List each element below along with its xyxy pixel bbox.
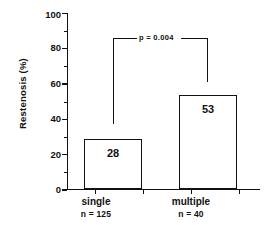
x-category-sublabel-multiple: n = 40 <box>161 209 221 219</box>
y-tick-label-0: 0 <box>56 185 61 195</box>
y-tick-label-100: 100 <box>45 10 61 20</box>
bar-multiple[interactable]: 53 <box>179 95 237 189</box>
y-tick-label-20: 20 <box>50 150 61 160</box>
y-tick-label-40: 40 <box>50 114 61 124</box>
y-minor-tick-30 <box>64 137 67 138</box>
y-tick-mark-20 <box>62 154 67 155</box>
y-minor-tick-90 <box>64 31 67 32</box>
significance-bracket-left-stem <box>113 38 114 124</box>
x-category-label-single: single <box>66 196 126 207</box>
x-tick-mark-2 <box>143 190 144 194</box>
x-tick-mark-4 <box>239 190 240 194</box>
y-tick-mark-80 <box>62 48 67 49</box>
y-axis-title: Restenosis (%) <box>17 34 28 154</box>
significance-bracket-left-arm <box>113 38 137 39</box>
bar-value-multiple: 53 <box>180 103 236 115</box>
x-tick-mark-1 <box>95 190 96 194</box>
y-tick-label-60: 60 <box>50 79 61 89</box>
y-tick-mark-0 <box>62 189 67 190</box>
y-minor-tick-50 <box>64 102 67 103</box>
y-tick-mark-60 <box>62 83 67 84</box>
x-category-sublabel-single: n = 125 <box>66 209 126 219</box>
x-tick-mark-3 <box>191 190 192 194</box>
significance-bracket-right-arm <box>181 38 208 39</box>
bar-single[interactable]: 28 <box>84 139 142 189</box>
y-minor-tick-70 <box>64 66 67 67</box>
significance-p-value-label: p = 0.004 <box>139 33 174 42</box>
y-tick-label-80: 80 <box>50 44 61 54</box>
y-tick-mark-40 <box>62 119 67 120</box>
y-minor-tick-10 <box>64 172 67 173</box>
y-axis-line <box>67 13 68 190</box>
bar-value-single: 28 <box>85 147 141 159</box>
restenosis-bar-chart: Restenosis (%) 0 20 40 60 80 100 <box>0 0 268 226</box>
y-tick-mark-100 <box>62 13 67 14</box>
x-category-label-multiple: multiple <box>161 196 221 207</box>
plot-area: 0 20 40 60 80 100 <box>67 13 260 190</box>
significance-bracket-right-stem <box>207 38 208 82</box>
